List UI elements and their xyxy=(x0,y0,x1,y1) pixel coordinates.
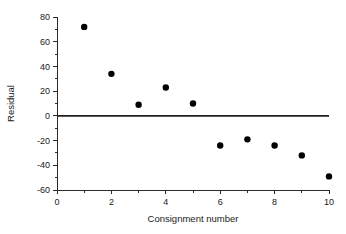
data-point xyxy=(190,100,196,106)
y-axis-tick-label: 0 xyxy=(45,111,50,121)
y-axis-tick-label: -60 xyxy=(37,185,50,195)
x-axis-tick-label: 0 xyxy=(54,197,59,207)
y-axis-tick-label: 80 xyxy=(40,12,50,22)
data-point xyxy=(108,71,114,77)
x-axis-tick-label: 6 xyxy=(218,197,223,207)
plot-background xyxy=(0,0,346,234)
data-point xyxy=(217,142,223,148)
data-point xyxy=(135,102,141,108)
x-axis-tick-label: 10 xyxy=(324,197,334,207)
data-point xyxy=(271,142,277,148)
y-axis-tick-label: -20 xyxy=(37,136,50,146)
residual-scatter-chart: 806040200-20-40-60 0246810 Consignment n… xyxy=(0,0,346,234)
data-point xyxy=(163,84,169,90)
data-point xyxy=(244,136,250,142)
y-axis-tick-label: 40 xyxy=(40,62,50,72)
x-axis-tick-label: 4 xyxy=(163,197,168,207)
data-point xyxy=(81,24,87,30)
data-point xyxy=(299,152,305,158)
x-axis-tick-label: 2 xyxy=(109,197,114,207)
y-axis-tick-label: -40 xyxy=(37,160,50,170)
chart-canvas: 806040200-20-40-60 0246810 Consignment n… xyxy=(0,0,346,234)
x-axis-tick-label: 8 xyxy=(272,197,277,207)
data-point xyxy=(326,173,332,179)
y-axis-tick-label: 60 xyxy=(40,37,50,47)
x-axis-title: Consignment number xyxy=(148,213,239,224)
y-axis-title: Residual xyxy=(5,85,16,122)
y-axis-tick-label: 20 xyxy=(40,86,50,96)
